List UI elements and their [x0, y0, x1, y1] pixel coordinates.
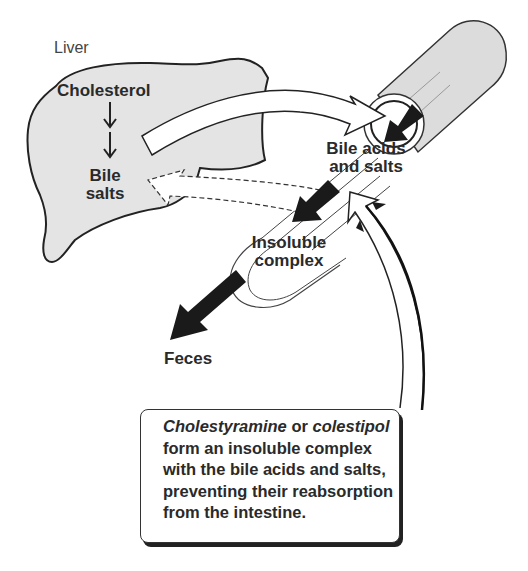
- insoluble-line2: complex: [255, 251, 324, 270]
- callout-line-2: form an insoluble complex: [163, 438, 391, 460]
- bile-salts-line2: salts: [86, 184, 125, 203]
- drug-name-cholestyramine: Cholestyramine: [163, 417, 287, 435]
- liver-label: Liver: [54, 40, 89, 57]
- bile-acids-label: Bile acids and salts: [316, 140, 416, 176]
- bile-salts-label: Bile salts: [80, 167, 130, 203]
- explanation-callout: Cholestyramine or colestipol form an ins…: [140, 409, 400, 543]
- black-arrow-to-complex: [292, 180, 340, 222]
- bile-acids-line1: Bile acids: [326, 139, 405, 158]
- callout-line-3: with the bile acids and salts,: [163, 459, 391, 481]
- callout-line-4: preventing their reabsorption: [163, 481, 391, 503]
- black-arrow-to-feces: [170, 270, 246, 340]
- insoluble-complex-label: Insoluble complex: [244, 234, 334, 270]
- drug-name-colestipol: colestipol: [312, 417, 389, 435]
- callout-line-5: from the intestine.: [163, 502, 391, 524]
- bile-salts-line1: Bile: [89, 166, 120, 185]
- cholesterol-label: Cholesterol: [57, 82, 151, 100]
- callout-or: or: [287, 417, 313, 435]
- bile-acids-line2: and salts: [329, 157, 403, 176]
- insoluble-line1: Insoluble: [252, 233, 327, 252]
- callout-line-1: Cholestyramine or colestipol: [163, 416, 391, 438]
- reabsorption-dashed-arrow: [148, 170, 320, 215]
- feces-label: Feces: [164, 350, 212, 368]
